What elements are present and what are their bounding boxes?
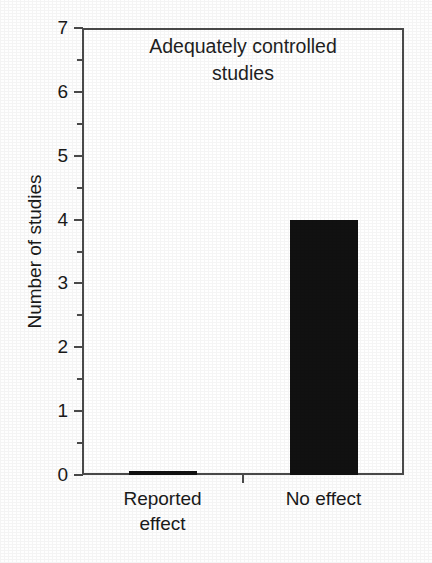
x-axis-category-label: No effect — [243, 486, 404, 511]
y-axis-minor-tick — [77, 442, 83, 444]
y-axis-major-tick — [74, 474, 83, 476]
y-axis-major-tick — [74, 219, 83, 221]
y-axis-tick-label: 5 — [40, 145, 68, 167]
bar-chart-figure: Number of studies 01234567 Adequately co… — [0, 0, 432, 563]
y-axis-tick-label: 6 — [40, 81, 68, 103]
x-axis-category-label-line: effect — [82, 511, 243, 536]
y-axis-minor-tick — [77, 59, 83, 61]
bar — [290, 220, 358, 475]
y-axis-tick-label: 2 — [40, 336, 68, 358]
y-axis-minor-tick — [77, 123, 83, 125]
y-axis-tick-label: 3 — [40, 272, 68, 294]
y-axis-minor-tick — [77, 314, 83, 316]
y-axis-tick-label: 1 — [40, 400, 68, 422]
y-axis-major-tick — [74, 155, 83, 157]
y-axis-tick-label: 7 — [40, 17, 68, 39]
y-axis-major-tick — [74, 91, 83, 93]
x-axis-category-label: Reportedeffect — [82, 486, 243, 536]
y-axis-major-tick — [74, 346, 83, 348]
y-axis-minor-tick — [77, 378, 83, 380]
x-axis-tick — [242, 474, 244, 483]
y-axis-major-tick — [74, 282, 83, 284]
y-axis-tick-labels: 01234567 — [34, 0, 68, 563]
y-axis-major-tick — [74, 410, 83, 412]
bar — [129, 471, 197, 475]
y-axis-minor-tick — [77, 187, 83, 189]
x-axis-category-label-line: Reported — [82, 486, 243, 511]
y-axis-tick-label: 4 — [40, 209, 68, 231]
y-axis-minor-tick — [77, 251, 83, 253]
y-axis-tick-label: 0 — [40, 464, 68, 486]
y-axis-major-tick — [74, 27, 83, 29]
x-axis-category-label-line: No effect — [243, 486, 404, 511]
